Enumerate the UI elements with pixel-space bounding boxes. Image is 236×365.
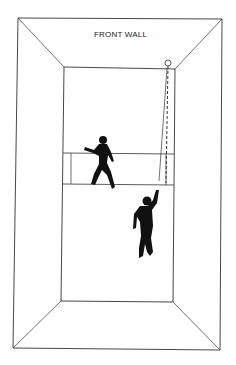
service-line — [63, 153, 174, 154]
corner-line-bl — [13, 301, 61, 348]
corner-line-tl — [18, 18, 64, 67]
corner-line-br — [173, 302, 220, 350]
short-line — [63, 184, 174, 185]
corner-line-tr — [175, 19, 222, 69]
player-2-figure — [133, 190, 159, 258]
ball — [165, 60, 171, 66]
court-diagram — [0, 0, 236, 365]
player-1-figure — [84, 136, 115, 189]
